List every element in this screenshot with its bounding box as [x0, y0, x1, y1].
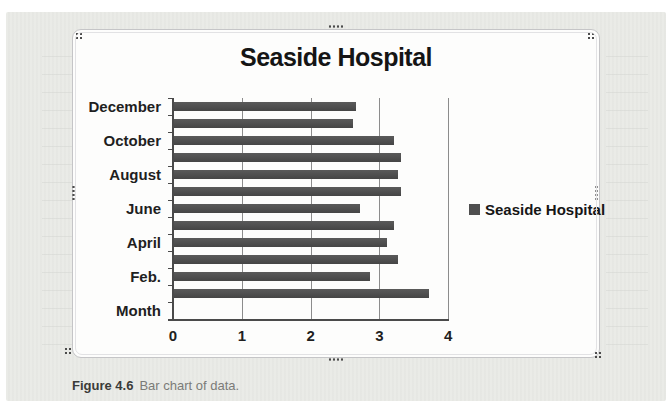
data-bar — [174, 153, 401, 162]
selection-handle-middle-left — [72, 185, 75, 200]
excel-chart-area: Seaside Hospital 01234MonthFeb.AprilJune… — [72, 29, 600, 358]
y-axis-category-label: June — [73, 199, 161, 219]
scanned-page: Seaside Hospital 01234MonthFeb.AprilJune… — [0, 0, 672, 419]
y-axis-category-label: December — [73, 97, 161, 117]
x-axis-tick-label: 3 — [364, 327, 394, 344]
selection-handle-bottom-center — [328, 358, 343, 361]
figure-caption-text: Bar chart of data. — [139, 378, 239, 393]
plot-area: 01234MonthFeb.AprilJuneAugustOctoberDece… — [73, 30, 599, 357]
y-axis-category-label: August — [73, 165, 161, 185]
legend-swatch-icon — [469, 204, 480, 215]
y-axis-category-label: Feb. — [73, 267, 161, 287]
figure-caption: Figure 4.6Bar chart of data. — [72, 378, 239, 393]
data-bar — [174, 170, 398, 179]
data-bar — [174, 255, 398, 264]
legend-label: Seaside Hospital — [485, 201, 605, 218]
selection-handle-top-right — [587, 32, 595, 40]
y-axis-category-label: April — [73, 233, 161, 253]
data-bar — [174, 289, 429, 298]
x-axis-tick-label: 1 — [227, 327, 257, 344]
selection-handle-middle-right — [595, 185, 598, 200]
data-bar — [174, 136, 394, 145]
worksheet-gridlines-right — [606, 56, 648, 362]
vertical-gridline — [379, 98, 380, 319]
selection-handle-top-left — [75, 32, 83, 40]
data-bar — [174, 187, 401, 196]
selection-handle-bottom-left — [64, 347, 72, 355]
x-axis-line — [168, 319, 449, 321]
selection-handle-top-center — [328, 25, 343, 28]
y-axis-category-label: October — [73, 131, 161, 151]
figure-caption-label: Figure 4.6 — [72, 378, 133, 393]
data-bar — [174, 238, 387, 247]
data-bar — [174, 119, 353, 128]
y-axis-category-label: Month — [73, 301, 161, 321]
data-bar — [174, 272, 370, 281]
x-axis-tick-label: 4 — [433, 327, 463, 344]
data-bar — [174, 204, 360, 213]
x-axis-tick-label: 0 — [158, 327, 188, 344]
data-bar — [174, 221, 394, 230]
x-axis-tick-label: 2 — [296, 327, 326, 344]
legend: Seaside Hospital — [469, 201, 605, 218]
vertical-gridline — [448, 98, 449, 319]
selection-handle-bottom-right — [594, 351, 602, 359]
data-bar — [174, 102, 356, 111]
